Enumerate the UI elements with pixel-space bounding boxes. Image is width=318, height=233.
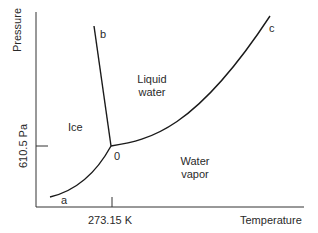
point-label-c: c bbox=[269, 23, 275, 34]
region-liquid-water: Liquid water bbox=[134, 73, 170, 99]
triple-point-label: 0 bbox=[114, 151, 120, 162]
x-axis-label: Temperature bbox=[240, 215, 302, 226]
y-tick-label: 610.5 Pa bbox=[18, 124, 29, 168]
point-label-b: b bbox=[100, 29, 106, 40]
point-label-a: a bbox=[61, 195, 67, 206]
fusion-curve-ob bbox=[94, 26, 111, 146]
region-ice-label: Ice bbox=[68, 121, 83, 133]
y-axis-label: Pressure bbox=[12, 8, 23, 52]
region-ice: Ice bbox=[68, 121, 83, 134]
x-tick-label: 273.15 K bbox=[88, 215, 132, 226]
region-vapor-line1: Water bbox=[177, 155, 213, 168]
sublimation-curve-oa bbox=[50, 146, 111, 197]
region-water-vapor: Water vapor bbox=[177, 155, 213, 181]
region-liquid-line2: water bbox=[134, 86, 170, 99]
phase-diagram-canvas bbox=[0, 0, 318, 233]
region-vapor-line2: vapor bbox=[177, 168, 213, 181]
region-liquid-line1: Liquid bbox=[134, 73, 170, 86]
